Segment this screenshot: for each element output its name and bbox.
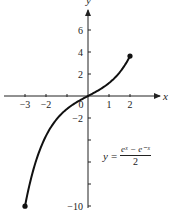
- y-tick-label: 6: [78, 25, 83, 36]
- y-axis-label: y: [85, 0, 91, 6]
- equals-sign: =: [111, 150, 117, 162]
- numerator: eˣ − e⁻ˣ: [120, 144, 151, 156]
- y-ticks: −10−2246: [67, 25, 91, 211]
- x-tick-label: 2: [128, 99, 133, 110]
- y-tick-label: 4: [78, 47, 83, 58]
- equation-lhs: y: [103, 150, 108, 162]
- x-axis-label: x: [162, 90, 168, 102]
- endpoint-dot: [127, 53, 132, 58]
- chart-canvas: x y −3−2012 −10−2246: [0, 0, 174, 210]
- x-tick-label: −3: [20, 99, 31, 110]
- y-tick-label: −2: [72, 113, 83, 124]
- endpoint-dot: [22, 204, 27, 209]
- y-tick-label: 2: [78, 69, 83, 80]
- x-tick-label: 1: [107, 99, 112, 110]
- fraction: eˣ − e⁻ˣ 2: [120, 144, 151, 167]
- x-tick-label: −2: [41, 99, 52, 110]
- denominator: 2: [133, 156, 138, 167]
- equation-label: y = eˣ − e⁻ˣ 2: [103, 144, 151, 167]
- y-tick-label: −10: [67, 201, 83, 211]
